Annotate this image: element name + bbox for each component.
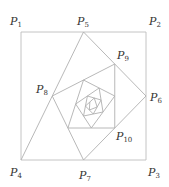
label-p10: P10 (115, 130, 132, 144)
label-p6: P6 (149, 91, 162, 105)
label-p7: P7 (78, 169, 91, 183)
label-p3: P3 (147, 166, 160, 180)
spiral-midpoint-diagram: P1P2P3P4P5P6P7P8P9P10 (0, 0, 169, 187)
label-p4: P4 (9, 166, 22, 180)
label-p9: P9 (116, 49, 129, 63)
label-p1: P1 (9, 15, 22, 29)
label-p8: P8 (35, 83, 48, 97)
label-p2: P2 (148, 15, 161, 29)
label-p5: P5 (76, 15, 89, 29)
